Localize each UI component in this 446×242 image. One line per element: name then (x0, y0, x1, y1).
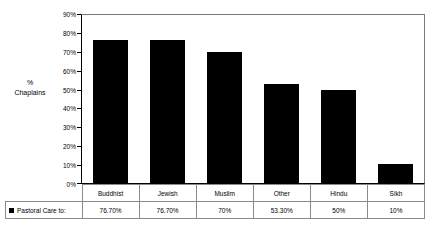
table-category-cell: Hindu (310, 185, 367, 202)
y-axis-tick-label: 90% (63, 11, 76, 18)
table-category-cell: Buddhist (82, 185, 139, 202)
table-value-cell: 10% (367, 202, 424, 219)
y-axis-tick-label: 10% (63, 162, 76, 169)
table-value-cell: 50% (310, 202, 367, 219)
y-axis-title-line-2: Chaplains (6, 88, 54, 98)
bar-cell (196, 15, 253, 183)
y-axis-tick-label: 50% (63, 86, 76, 93)
plot-area (81, 14, 425, 184)
legend-label: Pastoral Care to: (17, 207, 66, 214)
y-axis-title-line-1: % (6, 78, 54, 88)
bar-muslim[interactable] (207, 52, 242, 183)
bar-cell (310, 15, 367, 183)
bar-buddhist[interactable] (93, 40, 128, 183)
table-value-cell: 76.70% (139, 202, 196, 219)
bar-jewish[interactable] (150, 40, 185, 183)
bar-cell (139, 15, 196, 183)
y-axis-tick-label: 20% (63, 143, 76, 150)
y-axis: 90%80%70%60%50%40%30%20%10%0% (55, 14, 81, 184)
legend-entry: Pastoral Care to: (6, 202, 83, 219)
table-value-cell: 76.70% (82, 202, 139, 219)
table-corner-blank (6, 185, 83, 202)
bar-hindu[interactable] (321, 90, 356, 183)
table-row-categories: BuddhistJewishMuslimOtherHinduSikh (6, 185, 425, 202)
data-table: BuddhistJewishMuslimOtherHinduSikh Pasto… (5, 184, 425, 219)
bar-cell (253, 15, 310, 183)
table-category-cell: Sikh (367, 185, 424, 202)
table-category-cell: Muslim (196, 185, 253, 202)
y-axis-title: % Chaplains (6, 78, 54, 97)
y-axis-tick-label: 70% (63, 48, 76, 55)
table-category-cell: Jewish (139, 185, 196, 202)
bar-other[interactable] (264, 84, 299, 183)
table-row-values: Pastoral Care to: 76.70%76.70%70%53.30%5… (6, 202, 425, 219)
y-axis-tick-label: 40% (63, 105, 76, 112)
table-value-cell: 70% (196, 202, 253, 219)
bar-chart: % Chaplains 90%80%70%60%50%40%30%20%10%0… (0, 0, 446, 242)
bar-sikh[interactable] (378, 164, 413, 183)
bar-cell (367, 15, 424, 183)
table-value-cell: 53.30% (253, 202, 310, 219)
bar-cell (82, 15, 139, 183)
table-category-cell: Other (253, 185, 310, 202)
bar-series (82, 15, 424, 183)
y-axis-tick-label: 60% (63, 67, 76, 74)
y-axis-tick-label: 80% (63, 29, 76, 36)
y-axis-tick-label: 30% (63, 124, 76, 131)
legend-swatch-icon (9, 208, 14, 213)
